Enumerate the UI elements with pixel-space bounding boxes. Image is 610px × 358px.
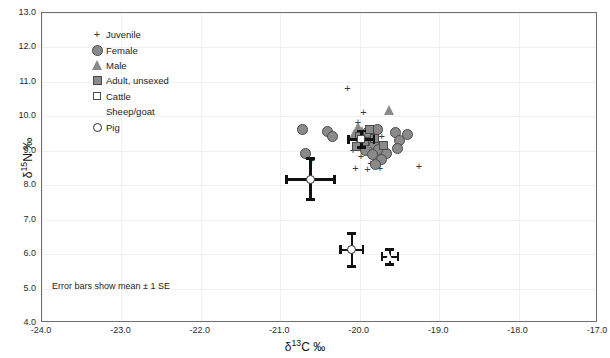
gridline-vertical (360, 13, 361, 321)
error-bar-cap-top (306, 157, 315, 160)
legend-label: Male (106, 60, 127, 71)
legend-item-sheep-goat[interactable]: Sheep/goat (88, 104, 208, 119)
x-tick-label: -22.0 (175, 326, 225, 335)
mean-marker-open-circle (306, 175, 315, 184)
legend-label: Adult, unsexed (106, 75, 169, 86)
gridline-horizontal (42, 13, 596, 14)
error-bar-cap-right (373, 135, 376, 144)
legend-symbol-open-triangle-icon (88, 108, 106, 116)
gridline-horizontal (42, 254, 596, 255)
error-bar-cap-bottom (306, 198, 315, 201)
x-tick-label: -23.0 (95, 326, 145, 335)
y-tick-label: 13.0 (0, 8, 36, 17)
y-tick-label: 9.0 (0, 146, 36, 155)
gridline-vertical (519, 13, 520, 321)
error-bar-cap-bottom (357, 146, 366, 149)
gridline-vertical (42, 13, 43, 321)
data-point-filled-circle (392, 143, 403, 154)
annotation-note: Error bars show mean ± 1 SE (52, 281, 170, 291)
y-tick-label: 7.0 (0, 215, 36, 224)
data-point-filled-square (365, 125, 374, 134)
y-tick-label: 8.0 (0, 180, 36, 189)
legend-symbol-open-square-icon (88, 92, 106, 100)
legend-label: Juvenile (106, 29, 141, 40)
mean-marker-open-triangle (385, 253, 393, 261)
x-tick-label: -21.0 (254, 326, 304, 335)
error-bars-layer (42, 13, 596, 21)
gridline-horizontal (42, 185, 596, 186)
legend-symbol-plus-icon: + (88, 29, 106, 40)
data-point-plus: + (360, 107, 366, 118)
error-bar-cap-bottom (385, 263, 394, 266)
gridline-horizontal (42, 151, 596, 152)
data-point-filled-square (379, 141, 388, 150)
legend-label: Sheep/goat (106, 106, 155, 117)
mean-marker-open-square (357, 135, 365, 143)
error-bar-cap-right (397, 252, 400, 261)
legend-item-adult-unsexed[interactable]: Adult, unsexed (88, 73, 208, 88)
legend-item-juvenile[interactable]: +Juvenile (88, 27, 208, 42)
legend-item-female[interactable]: Female (88, 42, 208, 57)
y-tick-label: 11.0 (0, 77, 36, 86)
data-point-plus: + (352, 163, 358, 174)
legend-label: Cattle (106, 91, 131, 102)
legend-symbol-filled-square-icon (88, 76, 106, 85)
data-point-filled-circle (327, 131, 338, 142)
gridline-vertical (439, 13, 440, 321)
x-tick-label: -17.0 (572, 326, 610, 335)
plot-area: ++++++++++++++++++ +JuvenileFemaleMaleAd… (41, 12, 597, 322)
data-point-plus: + (344, 83, 350, 94)
legend-symbol-filled-circle-icon (88, 45, 106, 56)
y-tick-label: 12.0 (0, 42, 36, 51)
error-bar-cap-top (357, 130, 366, 133)
legend: +JuvenileFemaleMaleAdult, unsexedCattleS… (88, 27, 208, 135)
legend-symbol-open-circle-icon (88, 123, 106, 132)
y-tick-label: 5.0 (0, 284, 36, 293)
x-tick-label: -20.0 (334, 326, 384, 335)
error-bar-cap-right (362, 245, 365, 254)
gridline-horizontal (42, 220, 596, 221)
error-bar-cap-left (339, 245, 342, 254)
x-tick-label: -19.0 (413, 326, 463, 335)
error-bar-cap-bottom (347, 265, 356, 268)
x-tick-label: -18.0 (493, 326, 543, 335)
data-point-filled-circle (297, 124, 308, 135)
y-tick-label: 6.0 (0, 249, 36, 258)
legend-item-male[interactable]: Male (88, 58, 208, 73)
error-bar-cap-right (333, 175, 336, 184)
data-point-filled-circle (402, 129, 413, 140)
error-bar-cap-top (347, 232, 356, 235)
data-point-plus: + (416, 161, 422, 172)
error-bar-cap-left (381, 252, 384, 261)
legend-item-pig[interactable]: Pig (88, 119, 208, 134)
y-tick-label: 10.0 (0, 111, 36, 120)
mean-marker-open-circle (347, 245, 356, 254)
error-bar-cap-left (347, 135, 350, 144)
gridline-vertical (280, 13, 281, 321)
x-axis-label: δ13C ‰ (0, 338, 610, 354)
chart-root: δ15N ‰ 4.05.06.07.08.09.010.011.012.013.… (0, 0, 610, 358)
legend-item-cattle[interactable]: Cattle (88, 89, 208, 104)
legend-label: Pig (106, 122, 120, 133)
legend-label: Female (106, 45, 138, 56)
data-point-filled-triangle (384, 105, 394, 115)
legend-symbol-filled-triangle-icon (88, 60, 106, 70)
x-tick-label: -24.0 (16, 326, 66, 335)
error-bar-cap-left (285, 175, 288, 184)
